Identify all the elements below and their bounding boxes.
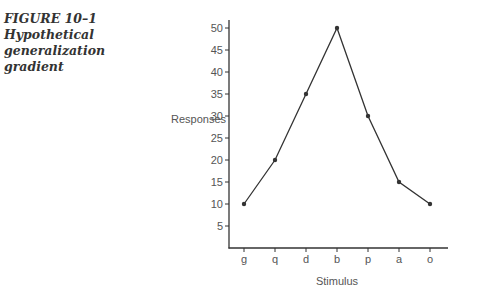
y-tick-label: 25 (211, 132, 223, 144)
y-tick-label: 45 (211, 44, 223, 56)
y-tick-label: 5 (217, 220, 223, 232)
y-axis-title: Responses (171, 113, 227, 125)
series-line (244, 28, 430, 204)
x-tick-label: g (241, 253, 247, 265)
line-chart: 5101520253035404550 gqdbpao Responses St… (0, 0, 482, 296)
x-tick-label: a (396, 253, 403, 265)
y-tick-label: 15 (211, 176, 223, 188)
y-tick-label: 40 (211, 66, 223, 78)
y-tick-label: 35 (211, 88, 223, 100)
data-point-marker (428, 202, 432, 206)
x-tick-label: p (365, 253, 371, 265)
data-point-marker (397, 180, 401, 184)
data-series (242, 26, 432, 206)
x-axis: gqdbpao (229, 248, 449, 265)
data-point-marker (335, 26, 339, 30)
data-point-marker (242, 202, 246, 206)
data-point-marker (304, 92, 308, 96)
data-point-marker (366, 114, 370, 118)
x-tick-label: d (303, 253, 309, 265)
y-tick-label: 10 (211, 198, 223, 210)
y-axis: 5101520253035404550 (211, 20, 229, 249)
y-tick-label: 50 (211, 22, 223, 34)
x-tick-label: q (272, 253, 278, 265)
x-axis-title: Stimulus (316, 275, 359, 287)
data-point-marker (273, 158, 277, 162)
x-tick-label: b (334, 253, 340, 265)
x-tick-label: o (427, 253, 433, 265)
y-tick-label: 20 (211, 154, 223, 166)
